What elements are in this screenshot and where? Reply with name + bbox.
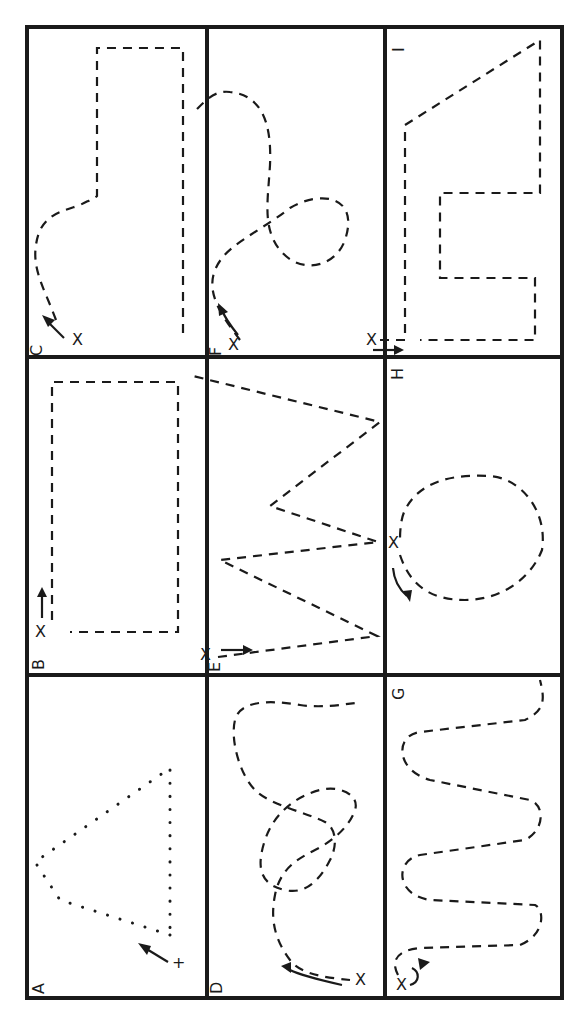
pattern-a [35,768,170,935]
pattern-c [35,48,183,335]
arrow-head-d [281,962,291,973]
pattern-i [380,40,540,340]
start-marker-d: X [355,970,366,989]
cell-label-e: E [205,662,224,672]
cell-g: X G [389,680,543,994]
cell-label-a: A [29,983,48,994]
start-marker-a: + [172,953,185,972]
pattern-g [395,680,543,975]
arrow-f [222,310,238,335]
grid-frame [27,27,562,998]
cell-a: + A [29,768,185,994]
cell-label-d: D [207,982,226,994]
cell-e: X E [193,376,380,672]
start-marker-f: X [228,335,239,354]
start-marker-c: X [72,330,83,349]
cell-b: X B [29,382,178,670]
arrow-head-a [138,943,151,955]
cell-c: X C [27,48,183,356]
arrow-head-g [418,958,430,970]
pattern-sheet: X C X F X I X B X E X H [0,0,575,1016]
pattern-d [234,702,356,980]
outer-border [27,27,562,998]
pattern-e [193,376,380,657]
cell-label-h: H [388,368,407,380]
cell-label-c: C [27,345,46,356]
cell-d: X D [207,702,366,994]
arrow-head-f [218,303,228,316]
start-marker-i: X [366,330,377,349]
cell-label-i: I [389,47,408,52]
arrow-head-b [37,587,47,597]
arrow-head-i [394,345,404,355]
cell-i: X I [366,40,540,355]
start-marker-h: X [388,533,399,552]
start-marker-b: X [35,622,46,641]
arrow-head-h [403,590,412,602]
start-marker-e: X [200,645,211,664]
cell-label-f: F [206,347,225,356]
pattern-h [400,476,543,600]
start-marker-g: X [396,975,407,994]
arrow-g [410,968,418,985]
cell-h: X H [388,368,543,602]
cell-label-g: G [389,688,408,700]
cell-f: X F [196,92,348,356]
pattern-f [196,92,348,340]
arrow-head-c [42,315,55,327]
pattern-b [52,382,178,632]
cell-label-b: B [29,659,48,670]
